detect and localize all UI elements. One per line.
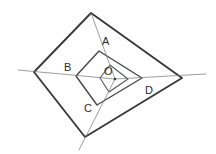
- center-point-o-dot: [114, 78, 117, 81]
- geometry-figure: O A B C D: [0, 0, 216, 154]
- vertex-label-d: D: [145, 85, 153, 96]
- vertex-label-o: O: [104, 66, 113, 77]
- ray-through-d-line: [115, 74, 206, 79]
- vertex-label-a: A: [102, 36, 110, 47]
- vertex-label-b: B: [64, 62, 72, 73]
- geometry-canvas: [0, 0, 216, 154]
- ray-through-c-line: [79, 79, 115, 150]
- vertex-label-c: C: [84, 103, 92, 114]
